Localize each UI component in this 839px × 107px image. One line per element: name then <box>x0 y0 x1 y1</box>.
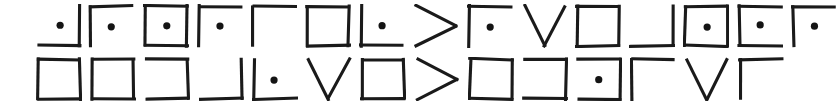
glyph-square-dot <box>143 4 189 48</box>
glyph-square <box>575 4 621 48</box>
glyph-square <box>90 57 136 101</box>
glyph-top-left-corner-dot <box>791 4 837 48</box>
glyph-row-2 <box>0 53 839 107</box>
glyph-dot <box>704 23 711 30</box>
glyph-bracket-right-dot <box>576 57 622 101</box>
glyph-dot <box>270 76 277 83</box>
glyph-top-left-corner <box>630 57 676 101</box>
glyph-dot <box>108 23 115 30</box>
glyph-dot <box>757 21 764 28</box>
glyph-dot <box>216 22 223 29</box>
glyph-dot <box>378 22 385 29</box>
glyph-chevron-right <box>414 57 460 101</box>
glyph-square <box>305 4 351 48</box>
glyph-top-left-corner-dot <box>88 4 134 48</box>
glyph-bracket-right <box>522 57 568 101</box>
glyph-row-1 <box>0 0 839 53</box>
glyph-dot <box>487 23 494 30</box>
glyph-top-left-corner-dot <box>197 4 243 48</box>
glyph-bottom-right-corner-dot <box>36 4 82 48</box>
glyph-square-dot <box>683 4 729 48</box>
glyph-top-left-corner <box>251 4 297 48</box>
glyph-bracket-left-dot <box>737 4 783 48</box>
glyph-top-left-corner-dot <box>467 4 513 48</box>
glyph-square <box>360 57 406 101</box>
glyph-dot <box>811 23 818 30</box>
glyph-dot <box>57 22 64 29</box>
glyph-bottom-left-corner-dot <box>359 4 405 48</box>
glyph-chevron-right <box>413 4 459 48</box>
glyph-vee <box>684 57 730 101</box>
glyph-square <box>36 57 82 101</box>
glyph-dot <box>163 22 170 29</box>
glyph-bracket-right <box>144 57 190 101</box>
glyph-bottom-left-corner-dot <box>252 57 298 101</box>
glyph-bottom-right-corner <box>629 4 675 48</box>
glyph-canvas <box>0 0 839 107</box>
glyph-dot <box>595 76 602 83</box>
glyph-vee <box>306 57 352 101</box>
glyph-vee <box>521 4 567 48</box>
glyph-bottom-right-corner <box>198 57 244 101</box>
glyph-top-left-corner <box>738 57 784 101</box>
glyph-square <box>468 57 514 101</box>
